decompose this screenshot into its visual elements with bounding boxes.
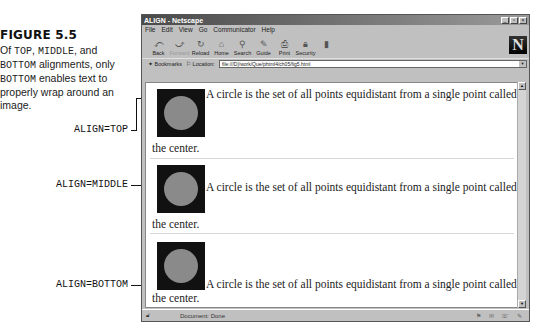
reload-icon: ↻ xyxy=(195,39,207,50)
bookmarks-label: Bookmarks xyxy=(155,61,183,67)
callout-line-top-v xyxy=(136,98,137,131)
print-icon: ⎙ xyxy=(279,39,291,50)
search-label: Search xyxy=(234,50,251,56)
callout-align-bottom: ALIGN=BOTTOM xyxy=(0,279,128,290)
figure-label: FIGURE 5.5 xyxy=(0,28,132,42)
menu-bar: File Edit View Go Communicator Help xyxy=(142,25,529,34)
search-icon: ⚲ xyxy=(237,39,249,50)
reload-button[interactable]: ↻Reload xyxy=(190,39,211,58)
guide-icon: ✎ xyxy=(258,39,270,50)
minimize-button[interactable]: _ xyxy=(501,17,509,24)
frame-align-bottom: A circle is the set of all points equidi… xyxy=(150,236,514,306)
paragraph-main: A circle is the set of all points equidi… xyxy=(206,181,517,193)
figure-caption: FIGURE 5.5 Of TOP, MIDDLE, and BOTTOM al… xyxy=(0,28,132,112)
circle-image xyxy=(157,242,205,290)
status-text: Document: Done xyxy=(180,313,225,319)
forward-icon: ⤻ xyxy=(174,39,186,50)
security-label: Security xyxy=(296,50,316,56)
menu-file[interactable]: File xyxy=(145,26,155,33)
forward-label: Forward xyxy=(169,50,189,56)
location-label-text: Location: xyxy=(193,61,215,67)
paragraph-tail: the center. xyxy=(152,292,199,304)
circle-shape xyxy=(164,96,198,130)
home-icon: ⌂ xyxy=(216,39,228,50)
page-content: A circle is the set of all points equidi… xyxy=(145,82,518,308)
code-keyword: BOTTOM xyxy=(0,74,36,85)
window-title: ALIGN - Netscape xyxy=(144,17,203,24)
frame-align-top: A circle is the set of all points equidi… xyxy=(150,86,514,159)
callout-align-top: ALIGN=TOP xyxy=(0,124,128,135)
menu-help[interactable]: Help xyxy=(262,26,275,33)
security-status-icon[interactable]: 🔓︎ xyxy=(146,312,150,319)
paragraph-main: A circle is the set of all points equidi… xyxy=(206,88,517,100)
location-dropdown-icon[interactable]: ▼ xyxy=(519,61,526,67)
back-icon: ⤺ xyxy=(153,39,165,50)
back-label: Back xyxy=(152,50,164,56)
figure-description: Of TOP, MIDDLE, and BOTTOM alignments, o… xyxy=(0,44,132,112)
stop-button[interactable]: ▮Stop xyxy=(316,39,337,58)
print-button[interactable]: ⎙Print xyxy=(274,39,295,58)
forward-button[interactable]: ⤻Forward xyxy=(169,39,190,58)
location-url: file:///D|/work/Que/phtml4/ch05/fig5.htm… xyxy=(222,61,311,67)
scroll-up-arrow-icon[interactable]: ▲ xyxy=(518,82,526,90)
menu-go[interactable]: Go xyxy=(199,26,208,33)
code-keyword: TOP xyxy=(14,46,32,57)
navigation-toolbar: ⤺Back ⤻Forward ↻Reload ⌂Home ⚲Search ✎Gu… xyxy=(142,34,529,58)
bookmarks-button[interactable]: ✦ Bookmarks xyxy=(148,61,182,67)
paragraph-tail: the center. xyxy=(152,218,199,230)
close-button[interactable]: × xyxy=(519,17,527,24)
scroll-down-arrow-icon[interactable]: ▼ xyxy=(518,300,526,308)
component-bar-icons[interactable]: ⚑ ✉ ☏ ✎ xyxy=(476,312,525,319)
back-button[interactable]: ⤺Back xyxy=(148,39,169,58)
reload-label: Reload xyxy=(192,50,209,56)
menu-communicator[interactable]: Communicator xyxy=(213,26,255,33)
frame-align-middle: A circle is the set of all points equidi… xyxy=(150,161,514,234)
guide-button[interactable]: ✎Guide xyxy=(253,39,274,58)
home-label: Home xyxy=(214,50,229,56)
code-keyword: BOTTOM xyxy=(0,60,36,71)
location-label: ⚐ Location: xyxy=(186,61,215,67)
status-bar: 🔓︎ Document: Done ⚑ ✉ ☏ ✎ xyxy=(142,309,529,321)
circle-shape xyxy=(164,172,198,206)
caption-text: , and xyxy=(74,44,97,56)
caption-text: alignments, only xyxy=(36,58,115,70)
netscape-logo[interactable]: N xyxy=(509,36,527,54)
maximize-button[interactable]: ▫ xyxy=(510,17,518,24)
stop-icon: ▮ xyxy=(321,39,333,50)
vertical-scrollbar[interactable]: ▲ ▼ xyxy=(517,82,526,308)
caption-text: Of xyxy=(0,44,14,56)
home-button[interactable]: ⌂Home xyxy=(211,39,232,58)
browser-window: ALIGN - Netscape _ ▫ × File Edit View Go… xyxy=(141,14,530,322)
paragraph-tail: the center. xyxy=(152,142,199,154)
security-button[interactable]: 🔒︎Security xyxy=(295,39,316,58)
code-keyword: MIDDLE xyxy=(38,46,74,57)
menu-view[interactable]: View xyxy=(179,26,193,33)
title-bar: ALIGN - Netscape _ ▫ × xyxy=(142,15,529,25)
menu-edit[interactable]: Edit xyxy=(161,26,172,33)
guide-label: Guide xyxy=(256,50,271,56)
lock-icon: 🔒︎ xyxy=(300,39,312,50)
circle-image xyxy=(157,165,205,213)
print-label: Print xyxy=(279,50,290,56)
paragraph-main: A circle is the set of all points equidi… xyxy=(206,278,517,290)
search-button[interactable]: ⚲Search xyxy=(232,39,253,58)
location-bar: ✦ Bookmarks ⚐ Location: file:///D|/work/… xyxy=(142,58,529,68)
location-input[interactable]: file:///D|/work/Que/phtml4/ch05/fig5.htm… xyxy=(219,60,527,68)
callout-align-middle: ALIGN=MIDDLE xyxy=(0,179,128,190)
circle-image xyxy=(157,89,205,137)
circle-shape xyxy=(164,249,198,283)
